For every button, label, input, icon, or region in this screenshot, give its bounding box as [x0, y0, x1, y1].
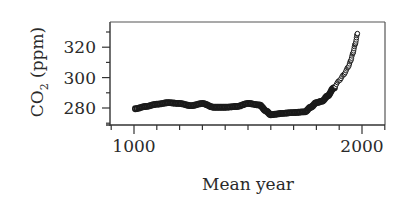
y-tick-label: 300 [64, 68, 96, 88]
chart-container: 10002000280300320 Mean year CO2 (ppm) [0, 0, 412, 201]
co2-chart: 10002000280300320 Mean year CO2 (ppm) [0, 0, 412, 201]
x-tick-label: 1000 [112, 136, 155, 156]
y-tick-label: 320 [64, 37, 96, 57]
x-axis-label: Mean year [202, 174, 295, 194]
y-tick-label: 280 [64, 98, 96, 118]
y-axis-label: CO2 (ppm) [27, 27, 51, 118]
x-tick-label: 2000 [340, 136, 383, 156]
data-points [133, 31, 360, 117]
data-point [355, 31, 359, 35]
